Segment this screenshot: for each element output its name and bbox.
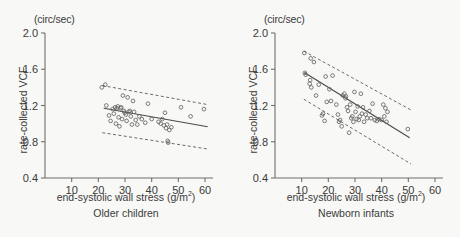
- x-axis-title-text: end-systolic wall stress (g/m: [287, 191, 418, 203]
- data-point-marker: [131, 99, 135, 103]
- data-point-marker: [112, 112, 116, 116]
- data-point-marker: [323, 119, 327, 123]
- data-point-marker: [312, 60, 316, 64]
- y-tick-label: 1.2: [253, 100, 268, 112]
- data-point-marker: [130, 123, 134, 127]
- data-point-marker: [100, 86, 104, 90]
- data-point-marker: [329, 99, 333, 103]
- data-point-marker: [308, 78, 312, 82]
- y-tick-label: 1.6: [23, 63, 38, 75]
- data-point-marker: [189, 115, 193, 119]
- data-point-marker: [163, 111, 167, 115]
- y-tick-label: 1.6: [253, 63, 268, 75]
- data-point-marker: [146, 102, 150, 106]
- x-axis-title-text: end-systolic wall stress (g/m: [57, 191, 188, 203]
- data-point-marker: [150, 117, 154, 121]
- data-point-marker: [352, 120, 356, 124]
- data-point-marker: [126, 95, 130, 99]
- y-tick-label: 0.4: [253, 172, 268, 184]
- data-point-marker: [334, 103, 338, 107]
- upper-confidence-bound: [102, 86, 207, 105]
- data-point-marker: [359, 92, 363, 96]
- data-point-marker: [360, 112, 364, 116]
- data-point-marker: [308, 82, 312, 86]
- y-tick-label: 0.4: [23, 172, 38, 184]
- data-point-marker: [331, 74, 335, 78]
- data-point-marker: [309, 86, 313, 90]
- data-point-marker: [134, 118, 138, 122]
- x-axis-title: end-systolic wall stress (g/m2): [256, 190, 456, 203]
- data-point-marker: [324, 75, 328, 79]
- data-point-marker: [364, 113, 368, 117]
- y-tick-label: 2.0: [253, 27, 268, 39]
- data-point-marker: [382, 115, 386, 119]
- data-point-marker: [128, 109, 132, 113]
- panel-older-children: (circ/sec) rate-collected VCF 0.40.81.21…: [0, 0, 230, 237]
- data-point-marker: [118, 124, 122, 128]
- data-point-marker: [348, 103, 352, 107]
- lower-confidence-bound: [102, 133, 207, 149]
- data-point-marker: [202, 107, 206, 111]
- figure-two-panel-scatter: (circ/sec) rate-collected VCF 0.40.81.21…: [0, 0, 460, 237]
- data-point-marker: [179, 105, 183, 109]
- data-point-marker: [365, 116, 369, 120]
- data-point-marker: [371, 102, 375, 106]
- data-point-marker: [369, 116, 373, 120]
- data-point-marker: [121, 94, 125, 98]
- y-tick-label: 1.2: [23, 100, 38, 112]
- y-tick-label: 2.0: [23, 27, 38, 39]
- data-point-marker: [309, 57, 313, 61]
- panel-caption-newborn-infants: Newborn infants: [256, 207, 456, 219]
- data-point-marker: [317, 83, 321, 87]
- data-point-marker: [135, 123, 139, 127]
- data-point-marker: [362, 120, 366, 124]
- data-point-marker: [170, 125, 174, 129]
- x-axis-title-tail: ): [422, 191, 426, 203]
- data-point-marker: [114, 122, 118, 126]
- data-point-marker: [381, 103, 385, 107]
- data-point-marker: [120, 117, 124, 121]
- data-point-marker: [109, 119, 113, 123]
- x-axis-title: end-systolic wall stress (g/m2): [26, 190, 226, 203]
- data-point-marker: [119, 105, 123, 109]
- data-point-marker: [346, 109, 350, 113]
- data-point-marker: [345, 105, 349, 109]
- data-point-marker: [125, 119, 129, 123]
- data-point-marker: [314, 94, 318, 98]
- data-point-marker: [325, 100, 329, 104]
- data-point-marker: [336, 113, 340, 117]
- panel-caption-older-children: Older children: [26, 207, 226, 219]
- y-tick-label: 0.8: [253, 136, 268, 148]
- data-point-marker: [384, 106, 388, 110]
- panel-newborn-infants: (circ/sec) rate-collected VCF 0.40.81.21…: [230, 0, 460, 237]
- upper-confidence-bound: [304, 51, 411, 110]
- data-point-marker: [347, 131, 351, 135]
- data-point-marker: [140, 117, 144, 121]
- data-point-marker: [104, 104, 108, 108]
- data-point-marker: [406, 127, 410, 131]
- y-tick-label: 0.8: [23, 136, 38, 148]
- data-point-marker: [353, 90, 357, 94]
- data-point-marker: [354, 110, 358, 114]
- lower-confidence-bound: [304, 99, 411, 164]
- data-point-marker: [143, 121, 147, 125]
- data-point-marker: [386, 110, 390, 114]
- x-axis-title-tail: ): [192, 191, 196, 203]
- data-point-marker: [107, 114, 111, 118]
- data-point-marker: [129, 115, 133, 119]
- data-point-marker: [340, 124, 344, 128]
